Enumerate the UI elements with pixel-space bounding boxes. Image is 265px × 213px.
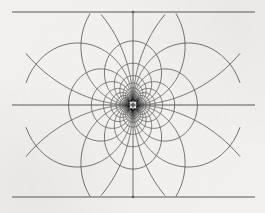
grid-canvas <box>0 0 265 213</box>
singularity-point <box>131 103 135 107</box>
cusp-point-1 <box>132 196 135 199</box>
conformal-grid-figure <box>0 0 265 213</box>
cusp-point-0 <box>132 11 135 14</box>
